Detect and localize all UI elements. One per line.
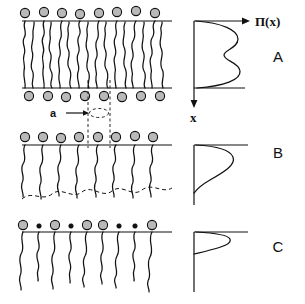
plot-c-pressure-curve	[194, 232, 230, 254]
panel-b-chains	[21, 145, 153, 199]
plot-c	[194, 232, 248, 292]
head-group	[38, 132, 47, 141]
panel-a-diagram	[20, 6, 172, 101]
head-group	[98, 220, 107, 229]
plot-a-pressure-curve	[196, 21, 240, 88]
head-group	[148, 132, 157, 141]
head-group	[94, 8, 103, 17]
head-group	[117, 92, 126, 101]
figure-root: a	[0, 0, 305, 304]
head-group	[111, 132, 120, 141]
anchor-dot	[37, 224, 42, 229]
anchor-dot	[133, 224, 138, 229]
panel-letter-a: A	[273, 48, 283, 65]
head-group	[131, 6, 140, 15]
head-group	[99, 91, 108, 100]
head-group	[150, 8, 159, 17]
plot-a-x-arrow-head	[191, 100, 198, 108]
plot-a-pressure-arrow-head	[242, 18, 250, 25]
plot-b	[194, 145, 248, 205]
grafting-distance-label: a	[50, 107, 57, 119]
panel-letter-c: C	[273, 238, 284, 255]
panel-b-diagram	[20, 131, 172, 199]
head-group	[20, 8, 29, 17]
panel-letter-b: B	[273, 144, 283, 161]
head-group	[43, 91, 52, 100]
head-group	[130, 131, 139, 140]
panel-b-head-groups	[20, 131, 157, 142]
head-group	[57, 8, 66, 17]
head-group	[75, 9, 84, 18]
head-group	[39, 7, 48, 16]
head-group	[18, 220, 27, 229]
head-group	[50, 220, 59, 229]
head-group	[147, 220, 156, 229]
head-group	[20, 132, 29, 141]
head-group	[155, 91, 164, 100]
head-group	[61, 92, 70, 101]
anchor-dot	[117, 224, 122, 229]
panel-c-diagram	[18, 220, 172, 292]
plot-b-pressure-curve	[194, 145, 233, 193]
plot-a: Π(x) x	[190, 14, 280, 125]
head-group	[136, 91, 145, 100]
head-group	[56, 133, 65, 142]
head-group	[24, 91, 33, 100]
head-group	[112, 7, 121, 16]
panel-a-bottom-head-groups	[24, 91, 164, 101]
plot-a-yaxis-label: x	[190, 110, 197, 125]
panel-a-top-head-groups	[20, 6, 159, 18]
head-group	[93, 132, 102, 141]
panel-c-chains	[19, 232, 152, 292]
anchor-dot	[69, 224, 74, 229]
plot-a-xaxis-label: Π(x)	[255, 14, 280, 29]
grafting-distance-ellipse	[90, 109, 109, 118]
polymer-brush-figure: a	[0, 0, 305, 304]
head-group	[74, 132, 83, 141]
head-group	[82, 220, 91, 229]
